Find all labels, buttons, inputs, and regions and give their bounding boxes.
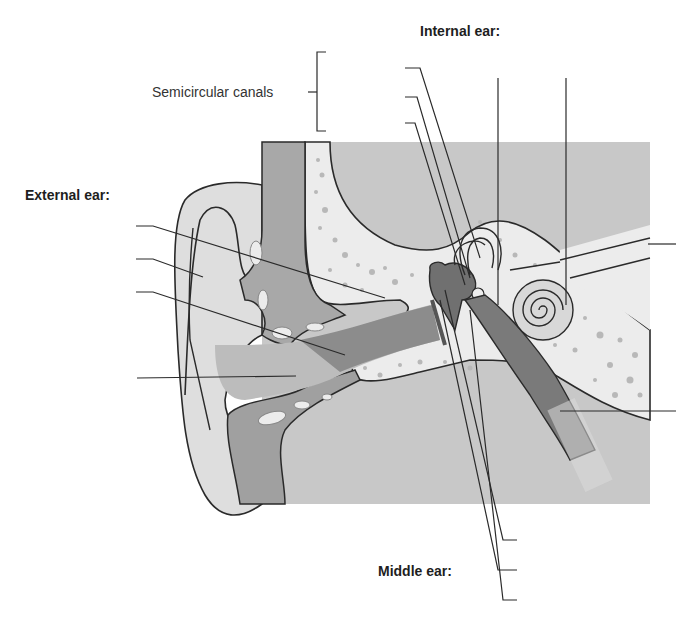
ear-diagram [0, 0, 689, 617]
external-ear-heading: External ear: [25, 187, 110, 203]
middle-ear-heading: Middle ear: [378, 563, 452, 579]
cochlea [513, 280, 573, 340]
internal-ear-heading: Internal ear: [420, 23, 500, 39]
semicircular-canals-label: Semicircular canals [152, 84, 273, 100]
